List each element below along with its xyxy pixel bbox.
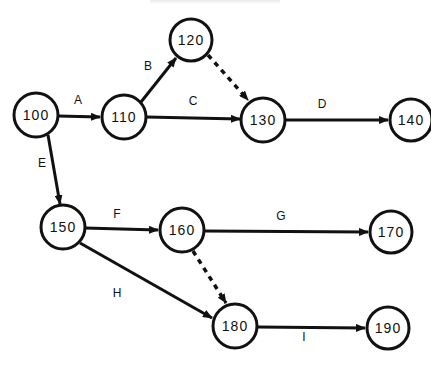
edge-label-D: D (318, 97, 327, 111)
node-170: 170 (370, 211, 412, 253)
svg-text:170: 170 (378, 224, 404, 240)
edge-C (146, 117, 240, 119)
edge-I (257, 327, 365, 328)
edge-label-G: G (276, 209, 285, 223)
svg-text:130: 130 (250, 112, 276, 128)
svg-text:140: 140 (398, 112, 424, 128)
node-180: 180 (213, 304, 257, 348)
edge-H (80, 243, 212, 318)
node-150: 150 (41, 205, 85, 249)
dummy-edge-120-130 (208, 55, 248, 100)
node-120: 120 (170, 19, 212, 61)
edge-label-C: C (189, 94, 198, 108)
svg-text:160: 160 (169, 222, 195, 238)
node-110: 110 (102, 95, 146, 139)
edge-G (204, 231, 368, 232)
edge-label-E: E (38, 156, 46, 170)
svg-text:150: 150 (50, 219, 76, 235)
edge-A (58, 116, 100, 117)
edge-F (85, 228, 158, 230)
node-140: 140 (390, 99, 431, 141)
edge-label-B: B (144, 59, 152, 73)
node-100: 100 (14, 93, 58, 137)
node-190: 190 (367, 307, 409, 349)
dummy-edge-160-180 (193, 251, 226, 303)
svg-text:100: 100 (23, 107, 49, 123)
edge-E (48, 135, 60, 204)
network-diagram: A B C D E F G H I 100 110 120 130 140 15… (0, 0, 431, 368)
node-130: 130 (241, 98, 285, 142)
edge-label-I: I (302, 330, 305, 344)
edge-label-A: A (74, 93, 82, 107)
svg-text:120: 120 (178, 32, 204, 48)
edge-label-F: F (113, 207, 120, 221)
svg-text:180: 180 (222, 318, 248, 334)
edge-label-H: H (113, 286, 122, 300)
svg-text:110: 110 (111, 109, 136, 125)
svg-text:190: 190 (375, 320, 401, 336)
node-160: 160 (160, 208, 204, 252)
